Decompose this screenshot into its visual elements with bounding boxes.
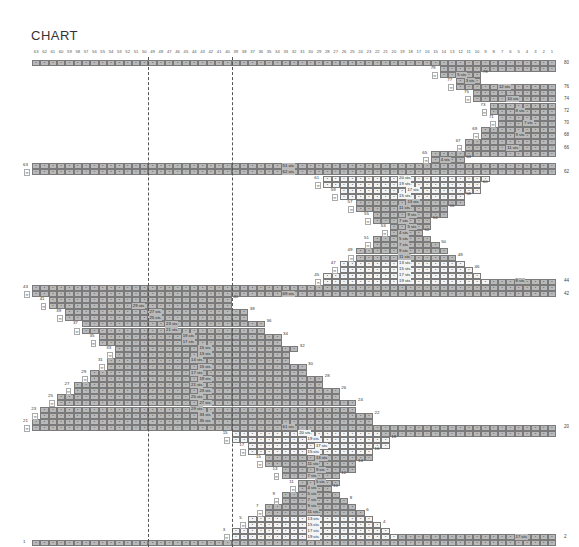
stitch-cell: • <box>74 413 82 419</box>
row-start-number: 73 <box>481 102 486 107</box>
stitch-cell: • <box>332 540 340 546</box>
stitch-cell: • <box>440 291 448 297</box>
stitch-cell: • <box>381 261 389 267</box>
wrap-marker-icon: ∞ <box>82 376 88 383</box>
stitch-cell: • <box>49 425 57 431</box>
stitch-cell: • <box>82 309 90 315</box>
stitch-cell: • <box>456 431 464 437</box>
stitch-cell: • <box>390 261 398 267</box>
stitch-cell: • <box>381 291 389 297</box>
stitch-cell: • <box>99 169 107 175</box>
stitch-cell: • <box>82 540 90 546</box>
stitch-cell: • <box>124 169 132 175</box>
stitch-cell: • <box>373 60 381 66</box>
stitch-cell: • <box>406 291 414 297</box>
stitch-cell: • <box>82 169 90 175</box>
stitch-cell: • <box>99 540 107 546</box>
stitch-cell: • <box>65 169 73 175</box>
row-end-number: 6 <box>366 507 368 512</box>
stitch-cell: • <box>523 540 531 546</box>
stitch-cell: • <box>356 413 364 419</box>
stitch-cell: • <box>498 540 506 546</box>
stitch-cell: • <box>132 413 140 419</box>
stitch-count-label: 21 sts <box>165 327 178 333</box>
stitch-cell: • <box>124 358 132 364</box>
stitch-cell: • <box>49 540 57 546</box>
stitch-cell: • <box>99 425 107 431</box>
stitch-cell: • <box>498 109 506 115</box>
stitch-cell: • <box>540 66 548 72</box>
stitch-cell: • <box>290 413 298 419</box>
stitch-cell: • <box>307 291 315 297</box>
stitch-cell: • <box>498 291 506 297</box>
row-end-number: 34 <box>283 331 288 336</box>
stitch-cell: • <box>215 540 223 546</box>
wrap-marker-icon: ∞ <box>240 522 246 529</box>
stitch-count-label: 4 sts <box>440 157 451 163</box>
stitch-cell: • <box>132 309 140 315</box>
row-start-number: 13 <box>273 466 278 471</box>
stitch-cell: • <box>107 60 115 66</box>
stitch-cell: • <box>140 60 148 66</box>
row-end-number: 14 <box>358 458 363 463</box>
stitch-cell: • <box>82 413 90 419</box>
stitch-cell: • <box>473 431 481 437</box>
row-start-number: 41 <box>40 296 45 301</box>
stitch-cell: • <box>207 425 215 431</box>
stitch-cell: • <box>65 425 73 431</box>
stitch-cell: • <box>207 309 215 315</box>
stitch-cell: • <box>298 540 306 546</box>
stitch-cell: • <box>90 413 98 419</box>
stitch-cell: • <box>257 358 265 364</box>
wrap-marker-icon: ∞ <box>382 230 388 237</box>
stitch-cell: • <box>406 60 414 66</box>
stitch-cell: • <box>124 413 132 419</box>
stitch-cell: • <box>173 425 181 431</box>
stitch-cell: • <box>365 291 373 297</box>
row-start-number: 29 <box>81 369 86 374</box>
stitch-cell: • <box>273 510 281 516</box>
stitch-cell: • <box>365 540 373 546</box>
stitch-cell: • <box>107 540 115 546</box>
row-start-number: 77 <box>447 77 452 82</box>
stitch-cell: • <box>381 443 389 449</box>
stitch-cell: • <box>290 510 298 516</box>
wrap-marker-icon: ∞ <box>24 291 30 298</box>
stitch-cell: • <box>257 169 265 175</box>
stitch-cell: • <box>190 540 198 546</box>
stitch-cell: • <box>381 540 389 546</box>
stitch-cell: • <box>140 540 148 546</box>
row-end-number: 50 <box>441 239 446 244</box>
stitch-count-label: 10 sts <box>506 96 519 102</box>
stitch-cell: • <box>498 151 506 157</box>
stitch-count-label: 8 sts <box>515 278 526 284</box>
stitch-cell: • <box>282 540 290 546</box>
stitch-cell: • <box>90 169 98 175</box>
stitch-cell: • <box>523 151 531 157</box>
row-number-label: 80 <box>564 60 569 65</box>
stitch-cell: • <box>165 540 173 546</box>
stitch-cell: • <box>540 109 548 115</box>
stitch-cell: • <box>365 413 373 419</box>
stitch-cell: • <box>531 540 539 546</box>
stitch-cell: • <box>74 169 82 175</box>
stitch-cell: • <box>548 169 556 175</box>
wrap-marker-icon: ∞ <box>482 109 488 116</box>
stitch-cell: • <box>198 425 206 431</box>
stitch-cell: • <box>456 291 464 297</box>
stitch-cell: • <box>215 358 223 364</box>
stitch-cell: • <box>198 309 206 315</box>
row-number-label: 68 <box>564 132 569 137</box>
stitch-count-label: 12 sts <box>498 84 511 90</box>
stitch-cell: • <box>540 540 548 546</box>
stitch-cell: • <box>348 467 356 473</box>
row-start-number: 49 <box>347 247 352 252</box>
stitch-cell: • <box>506 66 514 72</box>
wrap-marker-icon: ∞ <box>448 84 454 91</box>
row-end-number: 38 <box>250 306 255 311</box>
stitch-cell: • <box>190 413 198 419</box>
stitch-cell: • <box>390 60 398 66</box>
stitch-cell: • <box>373 261 381 267</box>
stitch-cell: • <box>273 413 281 419</box>
stitch-cell: • <box>390 291 398 297</box>
